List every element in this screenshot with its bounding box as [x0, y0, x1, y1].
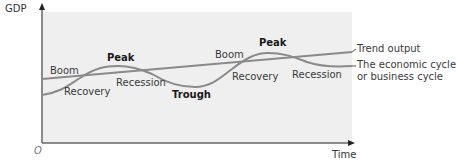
- economic-cycle-label-line2: or business cycle: [357, 72, 443, 82]
- phase-label-recession-1: Recession: [116, 78, 166, 88]
- phase-label-recovery-1: Recovery: [64, 87, 110, 97]
- phase-label-boom-1: Boom: [50, 66, 79, 76]
- phase-label-recovery-2: Recovery: [232, 72, 278, 82]
- phase-label-peak-2: Peak: [259, 38, 287, 48]
- trend-output-label: Trend output: [357, 44, 421, 54]
- phase-label-peak-1: Peak: [107, 53, 135, 63]
- phase-label-recession-2: Recession: [292, 70, 342, 80]
- y-axis-label: GDP: [5, 4, 26, 14]
- phase-label-trough: Trough: [172, 90, 211, 100]
- x-axis-label: Time: [332, 150, 356, 160]
- y-axis-arrow-icon: [39, 3, 45, 10]
- phase-label-boom-2: Boom: [215, 50, 244, 60]
- origin-label: O: [34, 146, 42, 156]
- trend-leader-line: [352, 49, 356, 52]
- economic-cycle-label-line1: The economic cycle: [357, 60, 456, 70]
